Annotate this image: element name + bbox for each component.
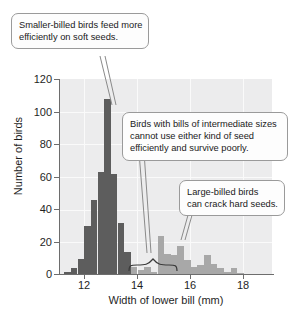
callout-large-line1: Large-billed birds (187, 186, 277, 198)
x-axis-line (59, 274, 274, 275)
histogram-bar (104, 99, 110, 275)
y-tick-label-0: 0 (0, 269, 52, 280)
x-tick-label-14: 14 (122, 280, 152, 291)
callout-intermediate-line2: cannot use either kind of seed (130, 130, 280, 142)
intermediate-range-brace (128, 258, 178, 272)
y-axis-title: Number of birds (12, 86, 24, 226)
callout-intermediate-line3: efficiently and survive poorly. (130, 142, 280, 154)
histogram-bar (91, 200, 97, 275)
callout-smaller-billed: Smaller-billed birds feed more efficient… (11, 13, 149, 49)
y-tick-120 (54, 79, 59, 80)
histogram-bar (184, 260, 190, 275)
histogram-bar (78, 259, 84, 275)
y-tick-80 (54, 144, 59, 145)
y-tick-40 (54, 209, 59, 210)
x-tick-label-12: 12 (69, 280, 99, 291)
histogram-bar (177, 246, 183, 275)
y-tick-label-60: 60 (0, 172, 52, 183)
histogram-bar (118, 223, 124, 275)
y-tick-label-120: 120 (0, 74, 52, 85)
histogram-figure: 120 100 80 60 40 20 0 12 14 16 18 Number… (0, 0, 297, 313)
y-tick-100 (54, 112, 59, 113)
y-tick-label-40: 40 (0, 204, 52, 215)
histogram-bar (204, 255, 210, 275)
callout-large-line2: can crack hard seeds. (187, 198, 277, 210)
y-tick-0 (54, 274, 59, 275)
y-tick-label-100: 100 (0, 107, 52, 118)
histogram-bar (111, 174, 117, 275)
callout-intermediate: Birds with bills of intermediate sizes c… (122, 112, 288, 161)
callout-intermediate-line1: Birds with bills of intermediate sizes (130, 118, 280, 130)
x-axis-title: Width of lower bill (mm) (59, 294, 273, 306)
callout-smaller-line1: Smaller-billed birds feed more (19, 19, 141, 31)
histogram-bars (59, 79, 272, 275)
y-tick-60 (54, 177, 59, 178)
y-tick-label-20: 20 (0, 237, 52, 248)
y-tick-20 (54, 242, 59, 243)
callout-large-billed: Large-billed birds can crack hard seeds. (179, 180, 285, 216)
y-tick-label-80: 80 (0, 139, 52, 150)
histogram-bar (98, 172, 104, 275)
x-tick-label-16: 16 (175, 280, 205, 291)
callout-smaller-line2: efficiently on soft seeds. (19, 31, 141, 43)
y-axis-line (59, 79, 60, 275)
x-tick-label-18: 18 (228, 280, 258, 291)
histogram-bar (84, 226, 90, 275)
